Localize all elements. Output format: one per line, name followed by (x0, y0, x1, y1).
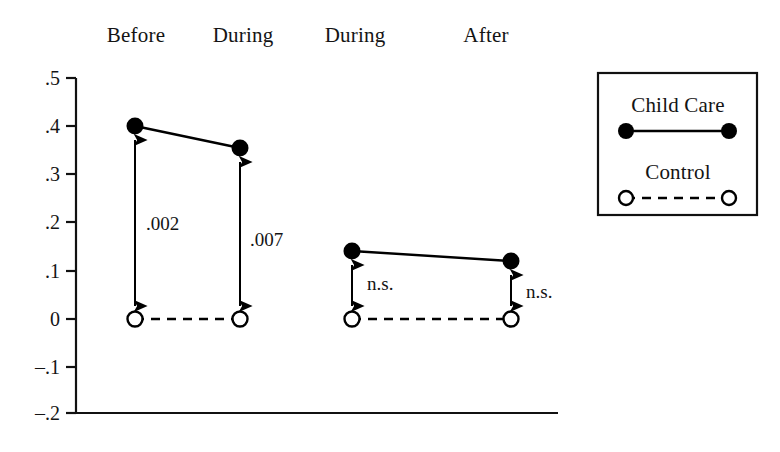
chart-figure: Before During During After .5 .4 .3 .2 .… (0, 0, 780, 452)
control-point-before (128, 312, 143, 327)
child-care-point-during-2 (344, 243, 361, 260)
y-tick-label-5: 0 (20, 308, 60, 331)
legend-label-child-care: Child Care (631, 93, 725, 118)
annotation-ns-during-2: n.s. (367, 273, 393, 295)
category-label-during-1: During (213, 23, 274, 48)
child-care-line-right (352, 251, 511, 261)
child-care-point-after (503, 253, 520, 270)
child-care-point-before (127, 118, 144, 135)
control-point-during-1 (233, 312, 248, 327)
y-tick-label-7: –.2 (8, 402, 60, 425)
y-tick-label-0: .5 (20, 67, 60, 90)
y-tick-label-4: .1 (20, 260, 60, 283)
annotation-p-during-1: .007 (250, 229, 283, 251)
legend-child-care-marker-left (618, 123, 634, 139)
y-tick-label-6: –.1 (8, 356, 60, 379)
legend-label-control: Control (645, 160, 711, 185)
left-group-series-control (128, 312, 248, 327)
child-care-line-left (135, 126, 240, 148)
control-point-during-2 (345, 312, 360, 327)
category-label-before: Before (107, 23, 165, 48)
y-tick-label-2: .3 (20, 163, 60, 186)
category-label-during-2: During (325, 23, 386, 48)
annotation-ns-after: n.s. (526, 281, 552, 303)
right-group-series-control (345, 312, 519, 327)
legend-child-care-marker-right (721, 123, 737, 139)
legend-control-marker-right (722, 191, 736, 205)
plot-canvas (0, 0, 780, 452)
control-point-after (504, 312, 519, 327)
right-group-series-child-care (344, 243, 520, 270)
y-tick-label-1: .4 (20, 115, 60, 138)
category-label-after: After (463, 23, 508, 48)
y-axis-ticks (66, 78, 76, 413)
child-care-point-during-1 (232, 140, 249, 157)
legend-control-marker-left (619, 191, 633, 205)
left-group-series-child-care (127, 118, 249, 157)
annotation-p-before: .002 (146, 213, 179, 235)
y-tick-label-3: .2 (20, 211, 60, 234)
